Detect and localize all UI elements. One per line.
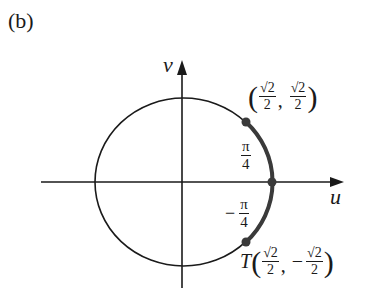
u-axis-label: u (330, 184, 341, 210)
upper-point-label: ( √2 2 , √2 2 ) (248, 81, 317, 112)
lower-angle-label: − π 4 (225, 197, 250, 230)
v-axis-arrow-icon (177, 60, 187, 75)
upper-point-dot (242, 118, 251, 127)
upper-x-fraction: √2 2 (259, 81, 276, 112)
axis-point-dot (268, 178, 277, 187)
lower-point-label: T ( √2 2 , − √2 2 ) (240, 246, 334, 277)
upper-angle-label: π 4 (240, 139, 252, 172)
point-name-t: T (240, 250, 251, 273)
lower-x-fraction: √2 2 (262, 246, 279, 277)
lower-y-fraction: √2 2 (306, 246, 323, 277)
v-axis-label: v (163, 52, 173, 78)
upper-y-fraction: √2 2 (290, 81, 307, 112)
